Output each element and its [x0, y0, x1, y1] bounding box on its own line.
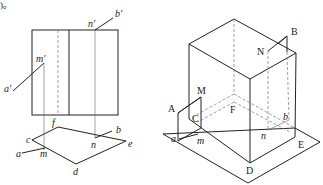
label-F: F: [230, 104, 236, 115]
label-f: f: [52, 117, 56, 128]
label-A: A: [168, 103, 176, 114]
label-D: D: [246, 165, 253, 176]
label-b-prime: b′: [115, 8, 123, 19]
label-c: c: [26, 134, 31, 145]
label-d: d: [73, 166, 79, 177]
label-a: a: [16, 148, 21, 159]
top-view: c f e d a m n b: [16, 117, 133, 177]
hidden-line-1: [198, 102, 234, 122]
label-a-lower: a: [171, 133, 176, 144]
label-n-prime: n′: [88, 18, 96, 29]
label-M: M: [197, 85, 206, 96]
diagram-canvas: )。 m′ a′ n′ b′ c f e d a m n b: [0, 0, 323, 185]
prism-top-face: [189, 19, 296, 79]
line-n-prime-b-prime: [95, 18, 113, 30]
label-a-prime: a′: [4, 83, 12, 94]
label-m: m: [40, 148, 47, 159]
line-n-b: [95, 131, 112, 138]
front-view: m′ a′ n′ b′: [4, 8, 123, 150]
label-E: E: [298, 139, 304, 150]
isometric-view: A M C F N B D E a m n b: [163, 19, 320, 183]
label-m-lower: m: [197, 135, 204, 146]
label-n: n: [91, 139, 96, 150]
prism-bottom-edge-DE: [250, 137, 295, 163]
projection-line-Bb: [287, 52, 289, 120]
label-N: N: [257, 46, 264, 57]
text-fragment: )。: [0, 0, 12, 10]
label-b: b: [116, 124, 121, 135]
label-n-lower: n: [261, 130, 266, 141]
label-b-lower: b: [283, 111, 288, 122]
label-e: e: [128, 138, 133, 149]
hidden-line-2: [234, 102, 290, 132]
line-a-prime-m-prime: [13, 63, 44, 91]
prism-edge-right: [295, 53, 296, 137]
front-view-rectangle: [32, 30, 118, 115]
label-m-prime: m′: [36, 53, 46, 64]
label-B: B: [291, 26, 298, 37]
label-C: C: [192, 113, 199, 124]
